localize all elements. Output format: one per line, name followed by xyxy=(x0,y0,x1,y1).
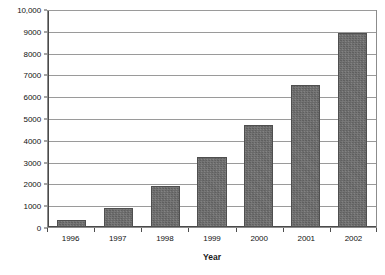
bar-2000[interactable] xyxy=(244,125,273,227)
y-tick-label: 1000 xyxy=(24,202,41,211)
y-tick-label: 8000 xyxy=(24,49,41,58)
bar-slot xyxy=(329,11,376,227)
y-tick-label: 6000 xyxy=(24,93,41,102)
x-tick-label: 1997 xyxy=(94,234,141,248)
x-tick-mark xyxy=(47,228,48,232)
bar-slot xyxy=(48,11,95,227)
x-tick-mark xyxy=(188,228,189,232)
plot-area xyxy=(47,10,377,228)
y-tick-label: 7000 xyxy=(24,71,41,80)
x-tick-mark xyxy=(94,228,95,232)
bar-slot xyxy=(142,11,189,227)
bar-1999[interactable] xyxy=(197,157,226,227)
y-tick-label: 10,000 xyxy=(17,6,41,15)
x-axis-title: Year xyxy=(47,252,377,262)
bar-slot xyxy=(95,11,142,227)
x-axis-tick-labels: 1996199719981999200020012002 xyxy=(47,234,377,248)
y-tick-label: 9000 xyxy=(24,27,41,36)
x-tick-label: 1996 xyxy=(47,234,94,248)
x-tick-label: 2000 xyxy=(236,234,283,248)
bar-1996[interactable] xyxy=(57,220,86,227)
x-tick-label: 1998 xyxy=(141,234,188,248)
bar-1998[interactable] xyxy=(151,186,180,227)
y-tick-label: 2000 xyxy=(24,180,41,189)
x-tick-label: 2001 xyxy=(283,234,330,248)
bar-2001[interactable] xyxy=(291,85,320,227)
x-tick-mark xyxy=(236,228,237,232)
y-tick-label: 4000 xyxy=(24,136,41,145)
bar-slot xyxy=(235,11,282,227)
bar-1997[interactable] xyxy=(104,208,133,227)
y-axis-tick-labels: 010002000300040005000600070008000900010,… xyxy=(8,10,44,228)
x-tick-mark xyxy=(141,228,142,232)
bar-2002[interactable] xyxy=(338,33,367,227)
y-tick-label: 3000 xyxy=(24,158,41,167)
bars-layer xyxy=(48,11,376,227)
y-tick-label: 0 xyxy=(37,224,41,233)
bar-slot xyxy=(282,11,329,227)
x-tick-label: 1999 xyxy=(188,234,235,248)
plot-inner xyxy=(48,11,376,227)
x-tick-label: 2002 xyxy=(330,234,377,248)
x-axis-tick-marks xyxy=(47,228,377,232)
x-tick-mark xyxy=(330,228,331,232)
bar-slot xyxy=(189,11,236,227)
x-tick-mark xyxy=(376,228,377,232)
x-tick-mark xyxy=(283,228,284,232)
bar-chart: $ Millions 01000200030004000500060007000… xyxy=(0,0,385,275)
y-tick-label: 5000 xyxy=(24,115,41,124)
